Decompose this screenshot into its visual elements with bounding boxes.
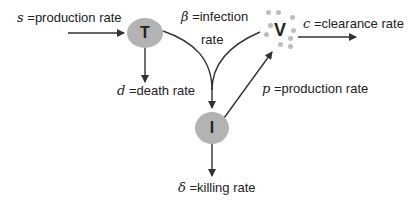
diagram-canvas: T I V s =production rate d =death rate β…	[0, 0, 410, 206]
virion-dot	[290, 15, 295, 20]
virion-dot	[266, 10, 271, 15]
virion-dot	[268, 23, 273, 28]
node-I-label: I	[210, 119, 214, 137]
virion-dot	[291, 28, 296, 33]
node-V-label: V	[274, 21, 286, 39]
node-I: I	[195, 112, 229, 144]
label-c: c =clearance rate	[303, 17, 404, 31]
label-beta-line2: rate	[201, 33, 223, 47]
label-beta: β =infection	[181, 10, 248, 24]
virion-dot	[288, 44, 293, 49]
label-delta: δ =killing rate	[178, 181, 256, 195]
virion-dot	[278, 42, 283, 47]
node-T: T	[127, 18, 163, 48]
label-s: s =production rate	[17, 11, 122, 25]
node-T-label: T	[140, 24, 150, 42]
virion-dot	[264, 32, 269, 37]
label-d: d =death rate	[117, 84, 195, 98]
virion-dot	[288, 36, 293, 41]
label-p: p =production rate	[262, 82, 368, 96]
virion-dot	[276, 10, 281, 15]
